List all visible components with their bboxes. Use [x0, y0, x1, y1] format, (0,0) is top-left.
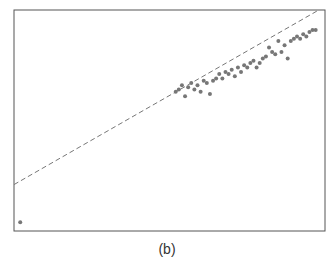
data-point [255, 65, 259, 69]
data-point [18, 220, 22, 224]
data-point [233, 74, 237, 78]
data-point [180, 83, 184, 87]
data-point [205, 81, 209, 85]
data-point [177, 88, 181, 92]
data-point [189, 81, 193, 85]
data-point [279, 50, 283, 54]
data-point [298, 37, 302, 41]
data-point [258, 61, 262, 65]
data-point [220, 77, 224, 81]
data-point [236, 65, 240, 69]
scatter-plot [0, 0, 334, 260]
plot-frame [14, 10, 325, 231]
data-point [314, 28, 318, 32]
data-point [195, 83, 199, 87]
data-point [192, 88, 196, 92]
data-point [245, 65, 249, 69]
data-point [239, 70, 243, 74]
data-point [283, 43, 287, 47]
data-point [304, 35, 308, 39]
data-point [227, 72, 231, 76]
data-point [286, 57, 290, 61]
data-point [230, 68, 234, 72]
data-point [251, 59, 255, 63]
data-point [214, 77, 218, 81]
figure-caption: (b) [0, 241, 334, 257]
data-point [186, 85, 190, 89]
data-point [208, 92, 212, 96]
data-point [276, 39, 280, 43]
data-point [199, 90, 203, 94]
data-point [267, 46, 271, 50]
data-point [273, 52, 277, 56]
data-point [264, 54, 268, 58]
data-point [217, 72, 221, 76]
data-point [183, 94, 187, 98]
